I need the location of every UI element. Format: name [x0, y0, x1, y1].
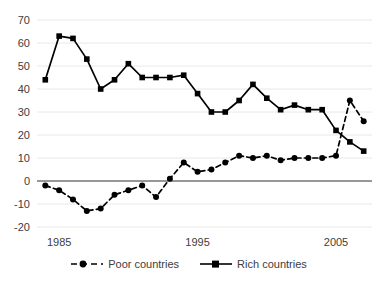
data-point: [333, 128, 339, 134]
data-point: [306, 107, 312, 113]
data-point: [209, 109, 215, 115]
gridlines: [37, 20, 372, 227]
legend-label-poor-countries: Poor countries: [108, 258, 179, 270]
legend-item-rich-countries[interactable]: Rich countries: [199, 258, 307, 270]
data-point: [70, 36, 76, 42]
data-point: [126, 61, 132, 67]
x-tick-1995: 1995: [185, 236, 209, 248]
y-tick-40: 40: [18, 83, 30, 95]
y-tick-60: 60: [18, 37, 30, 49]
data-point: [70, 196, 76, 202]
y-axis-tick-labels: -20-10010203040506070: [14, 14, 30, 233]
chart-legend: Poor countries Rich countries: [0, 258, 377, 270]
y-tick--20: -20: [14, 221, 30, 233]
data-point: [139, 183, 145, 189]
x-tick-2005: 2005: [324, 236, 348, 248]
data-point: [292, 102, 298, 108]
data-point: [236, 98, 242, 104]
y-tick-10: 10: [18, 152, 30, 164]
data-point: [98, 206, 104, 212]
data-point: [181, 72, 187, 78]
data-point: [264, 95, 270, 101]
data-point: [181, 160, 187, 166]
y-tick-30: 30: [18, 106, 30, 118]
data-point: [222, 160, 228, 166]
x-axis-tick-labels: 198519952005: [47, 236, 348, 248]
data-point: [347, 139, 353, 145]
data-point: [278, 107, 284, 113]
legend-label-rich-countries: Rich countries: [237, 258, 307, 270]
data-point: [278, 157, 284, 163]
data-point: [125, 187, 131, 193]
data-point: [84, 208, 90, 214]
y-tick--10: -10: [14, 198, 30, 210]
series-line-poor-countries: [45, 101, 363, 211]
data-point: [319, 155, 325, 161]
series-line-rich-countries: [45, 36, 363, 151]
data-point: [250, 82, 256, 88]
data-point: [43, 77, 49, 83]
data-point: [195, 169, 201, 175]
data-point: [291, 155, 297, 161]
data-point: [333, 153, 339, 159]
data-point: [264, 153, 270, 159]
data-point: [208, 167, 214, 173]
data-point: [167, 176, 173, 182]
x-tick-1985: 1985: [47, 236, 71, 248]
data-point: [153, 194, 159, 200]
data-point: [153, 75, 159, 81]
data-point: [222, 109, 228, 115]
legend-swatch-square-solid: [199, 258, 233, 270]
data-point: [236, 153, 242, 159]
data-point: [347, 98, 353, 104]
series-markers: [42, 33, 366, 214]
data-point: [112, 192, 118, 198]
data-point: [56, 187, 62, 193]
chart-container: -20-10010203040506070 198519952005 Poor …: [0, 0, 377, 288]
legend-item-poor-countries[interactable]: Poor countries: [70, 258, 179, 270]
data-point: [42, 183, 48, 189]
y-tick-0: 0: [24, 175, 30, 187]
data-point: [56, 33, 62, 39]
data-point: [84, 56, 90, 62]
data-point: [361, 148, 367, 154]
data-point: [195, 91, 201, 97]
y-tick-50: 50: [18, 60, 30, 72]
data-point: [167, 75, 173, 81]
legend-swatch-circle-dashed: [70, 258, 104, 270]
line-chart: -20-10010203040506070 198519952005: [0, 0, 377, 258]
data-point: [98, 86, 104, 92]
data-point: [305, 155, 311, 161]
series-lines: [45, 36, 363, 211]
y-tick-70: 70: [18, 14, 30, 26]
data-point: [250, 155, 256, 161]
data-point: [139, 75, 145, 81]
data-point: [319, 107, 325, 113]
data-point: [112, 77, 118, 83]
data-point: [361, 118, 367, 124]
y-tick-20: 20: [18, 129, 30, 141]
